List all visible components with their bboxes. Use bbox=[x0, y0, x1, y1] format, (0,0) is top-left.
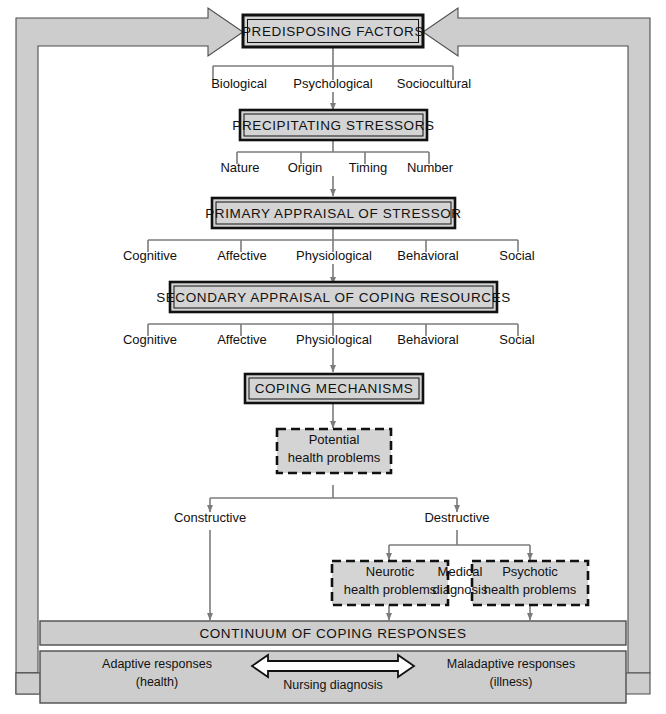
branch-label: Physiological bbox=[296, 332, 372, 347]
flowchart-svg: PREDISPOSING FACTORS PRECIPITATING STRES… bbox=[0, 0, 666, 714]
node-label-line2: health problems bbox=[344, 582, 437, 597]
node-potential-health-problems[interactable]: Potential health problems bbox=[277, 429, 391, 473]
branch-label: Affective bbox=[217, 248, 267, 263]
footer-center-label: Nursing diagnosis bbox=[283, 678, 382, 692]
node-label: PRECIPITATING STRESSORS bbox=[232, 118, 434, 133]
branch-label: Social bbox=[499, 332, 535, 347]
footer-adaptive-maladaptive: Adaptive responses (health) Maladaptive … bbox=[40, 651, 626, 703]
node-label: PRIMARY APPRAISAL OF STRESSOR bbox=[205, 206, 461, 221]
node-neurotic-health-problems[interactable]: Neurotic health problems bbox=[332, 561, 448, 605]
branch-label: Constructive bbox=[174, 510, 246, 525]
branch-labels-stressors: Nature Origin Timing Number bbox=[220, 160, 453, 175]
branch-label: Timing bbox=[349, 160, 388, 175]
node-label: CONTINUUM OF COPING RESPONSES bbox=[199, 626, 466, 641]
branch-label: Number bbox=[407, 160, 454, 175]
node-label: COPING MECHANISMS bbox=[255, 381, 414, 396]
footer-right-line2: (illness) bbox=[489, 675, 532, 689]
branch-labels-coping-outcome: Constructive Destructive bbox=[174, 510, 490, 525]
node-predisposing-factors[interactable]: PREDISPOSING FACTORS bbox=[242, 15, 424, 47]
node-label-line1: Psychotic bbox=[502, 564, 558, 579]
branch-label: Social bbox=[499, 248, 535, 263]
footer-right-line1: Maladaptive responses bbox=[447, 657, 576, 671]
branch-label: Affective bbox=[217, 332, 267, 347]
branch-label: Behavioral bbox=[397, 248, 459, 263]
branch-label: Nature bbox=[220, 160, 259, 175]
medical-diagnosis-line2: diagnosis bbox=[433, 582, 488, 597]
branch-label: Sociocultural bbox=[397, 76, 472, 91]
branch-label: Physiological bbox=[296, 248, 372, 263]
node-label-line2: health problems bbox=[484, 582, 577, 597]
footer-left-line2: (health) bbox=[136, 675, 178, 689]
branch-label: Behavioral bbox=[397, 332, 459, 347]
node-label: PREDISPOSING FACTORS bbox=[242, 24, 424, 39]
node-label-line1: Neurotic bbox=[366, 564, 415, 579]
medical-diagnosis-line1: Medical bbox=[438, 564, 483, 579]
footer-left-line1: Adaptive responses bbox=[102, 657, 212, 671]
branch-label: Biological bbox=[211, 76, 267, 91]
node-continuum[interactable]: CONTINUUM OF COPING RESPONSES bbox=[40, 621, 626, 645]
branch-label: Cognitive bbox=[123, 248, 177, 263]
node-primary-appraisal[interactable]: PRIMARY APPRAISAL OF STRESSOR bbox=[205, 198, 461, 228]
node-secondary-appraisal[interactable]: SECONDARY APPRAISAL OF COPING RESOURCES bbox=[156, 282, 511, 312]
branch-label: Origin bbox=[288, 160, 323, 175]
branch-label: Psychological bbox=[293, 76, 373, 91]
node-psychotic-health-problems[interactable]: Psychotic health problems bbox=[472, 561, 588, 605]
branch-labels-primary-appraisal: Cognitive Affective Physiological Behavi… bbox=[123, 248, 535, 263]
node-precipitating-stressors[interactable]: PRECIPITATING STRESSORS bbox=[232, 110, 434, 140]
node-coping-mechanisms[interactable]: COPING MECHANISMS bbox=[245, 374, 423, 403]
branch-labels-secondary-appraisal: Cognitive Affective Physiological Behavi… bbox=[123, 332, 535, 347]
branch-labels-predisposing: Biological Psychological Sociocultural bbox=[211, 76, 471, 91]
node-label-line1: Potential bbox=[309, 432, 360, 447]
node-label: SECONDARY APPRAISAL OF COPING RESOURCES bbox=[156, 290, 511, 305]
diagram-canvas: PREDISPOSING FACTORS PRECIPITATING STRES… bbox=[0, 0, 666, 714]
node-label-line2: health problems bbox=[288, 450, 381, 465]
branch-label: Destructive bbox=[424, 510, 489, 525]
branch-label: Cognitive bbox=[123, 332, 177, 347]
